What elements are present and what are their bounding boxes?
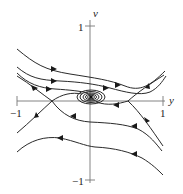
arrow-icon	[113, 102, 119, 108]
spiral-sink	[77, 90, 105, 104]
arrow-icon	[51, 78, 57, 84]
v-max-label: 1	[78, 21, 84, 33]
arrow-icon	[131, 151, 137, 157]
trajectory-top	[17, 49, 165, 88]
arrow-icon	[57, 135, 63, 141]
arrow-icon	[34, 112, 39, 118]
trajectory-lower-mid	[52, 101, 162, 151]
arrow-icon	[103, 85, 109, 91]
y-axis-label: y	[168, 94, 174, 106]
y-max-label: 1	[160, 107, 166, 119]
arrow-icon	[115, 82, 121, 88]
y-min-label: −1	[10, 107, 22, 119]
phase-portrait: v 1 −1 y −1 1	[0, 0, 183, 194]
separatrix-right-in	[128, 101, 163, 146]
v-axis-label: v	[93, 7, 98, 19]
v-min-label: −1	[72, 175, 84, 187]
arrow-icon	[46, 86, 52, 92]
